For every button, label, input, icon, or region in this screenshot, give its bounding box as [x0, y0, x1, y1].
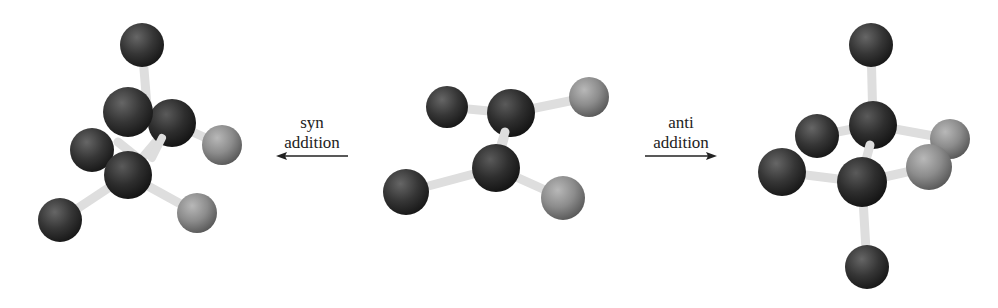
atom-bottom	[845, 245, 889, 289]
atom-front-left	[103, 87, 153, 137]
carbon-back	[148, 99, 196, 147]
syn-arrow	[276, 152, 348, 160]
atom-bottom-right-light	[541, 176, 585, 220]
atom-right-light	[202, 125, 242, 165]
anti-label-line2: addition	[641, 133, 721, 153]
atom-top	[849, 23, 893, 67]
atom-left-front	[758, 148, 806, 196]
atom-right-front-light	[906, 144, 952, 190]
atom-bottom-right-light	[177, 193, 217, 233]
syn-label-line1: syn	[272, 113, 352, 133]
anti-arrow	[645, 152, 717, 160]
carbon-upper	[487, 89, 535, 137]
syn-label-line2: addition	[272, 133, 352, 153]
anti-product-model	[758, 23, 970, 289]
atom-left-back	[795, 114, 839, 158]
alkene-model	[383, 77, 609, 220]
carbon-front	[104, 151, 152, 199]
syn-addition-label: syn addition	[272, 113, 352, 153]
reaction-diagram	[0, 0, 998, 308]
syn-product-model	[38, 23, 242, 242]
carbon-lower	[472, 144, 520, 192]
atom-top	[120, 23, 164, 67]
atom-top-right-light	[569, 77, 609, 117]
anti-addition-label: anti addition	[641, 113, 721, 153]
atom-bottom-left	[38, 198, 82, 242]
atom-bottom-left	[383, 169, 429, 215]
carbon-lower	[837, 157, 887, 207]
anti-label-line1: anti	[641, 113, 721, 133]
atom-top-left	[426, 86, 468, 128]
